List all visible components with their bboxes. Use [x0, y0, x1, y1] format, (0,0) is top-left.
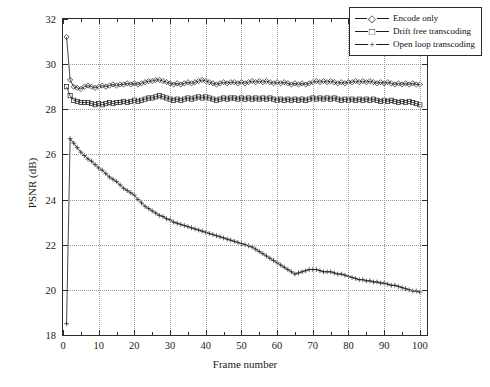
grid-line-vertical	[277, 19, 279, 335]
legend-marker-plus-icon: +	[355, 39, 389, 51]
data-point-plus	[293, 272, 298, 277]
grid-line-horizontal	[63, 290, 427, 292]
axis-tick-y	[422, 290, 427, 291]
axis-tick-y	[63, 64, 68, 65]
grid-line-vertical	[420, 19, 422, 335]
axis-tick-x	[206, 19, 207, 24]
y-tick-label: 18	[36, 330, 56, 341]
grid-line-vertical	[206, 19, 208, 335]
axis-tick-x	[134, 19, 135, 24]
data-point-plus	[146, 206, 151, 211]
data-point-plus	[289, 269, 294, 274]
data-point-plus	[318, 268, 323, 273]
data-point-plus	[161, 214, 166, 219]
legend-item-drift-free-transcoding: □ Drift free transcoding	[355, 25, 475, 38]
data-point-plus	[228, 238, 233, 243]
data-point-plus	[178, 222, 183, 227]
data-point-plus	[214, 233, 219, 238]
data-point-plus	[64, 321, 69, 326]
grid-line-vertical	[384, 19, 386, 335]
x-tick-label: 20	[129, 340, 140, 351]
grid-line-vertical	[348, 19, 350, 335]
data-point-plus	[282, 265, 287, 270]
axis-tick-y	[422, 154, 427, 155]
grid-line-vertical	[170, 19, 172, 335]
axis-tick-y	[63, 245, 68, 246]
axis-tick-x-minor	[402, 332, 403, 335]
grid-line-vertical	[241, 19, 243, 335]
axis-tick-y	[422, 64, 427, 65]
axis-tick-y	[422, 109, 427, 110]
y-tick-label: 30	[36, 59, 56, 70]
y-axis-title: PSNR (dB)	[26, 123, 38, 243]
data-point-plus	[150, 208, 155, 213]
data-point-plus	[375, 280, 380, 285]
data-point-plus	[303, 268, 308, 273]
data-point-plus	[232, 239, 237, 244]
axis-tick-x	[313, 19, 314, 24]
data-point-plus	[343, 273, 348, 278]
axis-tick-x-minor	[224, 19, 225, 22]
axis-tick-x	[277, 19, 278, 24]
axis-tick-x-minor	[259, 19, 260, 22]
grid-line-horizontal	[63, 109, 427, 111]
data-point-plus	[296, 271, 301, 276]
axis-tick-y	[63, 290, 68, 291]
x-tick-label: 80	[343, 340, 354, 351]
legend-item-open-loop-transcoding: + Open loop transcoding	[355, 38, 475, 51]
legend-label-encode-only: Encode only	[393, 12, 438, 25]
axis-tick-x-minor	[188, 19, 189, 22]
axis-tick-x	[420, 330, 421, 335]
axis-tick-y	[63, 19, 68, 20]
data-point-plus	[175, 221, 180, 226]
axis-tick-x-minor	[81, 19, 82, 22]
axis-tick-y	[422, 335, 427, 336]
x-tick-label: 10	[93, 340, 104, 351]
data-point-plus	[225, 237, 230, 242]
axis-tick-x-minor	[295, 332, 296, 335]
x-tick-label: 40	[200, 340, 211, 351]
axis-tick-x-minor	[152, 332, 153, 335]
data-point-plus	[368, 278, 373, 283]
axis-tick-x	[241, 330, 242, 335]
axis-tick-x	[99, 330, 100, 335]
data-point-plus	[396, 284, 401, 289]
axis-tick-x	[313, 330, 314, 335]
data-point-plus	[218, 234, 223, 239]
data-point-plus	[111, 177, 116, 182]
x-tick-label: 0	[60, 340, 65, 351]
data-point-plus	[271, 258, 276, 263]
axis-tick-y	[63, 335, 68, 336]
data-point-plus	[182, 223, 187, 228]
data-point-plus	[257, 249, 262, 254]
grid-line-vertical	[99, 19, 101, 335]
data-point-plus	[200, 229, 205, 234]
data-point-plus	[332, 271, 337, 276]
axis-tick-x	[206, 330, 207, 335]
legend-marker-diamond-icon: ◇	[355, 13, 389, 25]
data-point-plus	[153, 211, 158, 216]
axis-tick-x-minor	[331, 19, 332, 22]
y-tick-label: 24	[36, 194, 56, 205]
data-point-plus	[164, 216, 169, 221]
axis-tick-x-minor	[81, 332, 82, 335]
data-point-plus	[128, 190, 133, 195]
axis-tick-x	[384, 330, 385, 335]
y-tick-label: 20	[36, 284, 56, 295]
data-point-plus	[253, 247, 258, 252]
axis-tick-x	[170, 19, 171, 24]
grid-line-vertical	[134, 19, 136, 335]
y-tick-label: 32	[36, 14, 56, 25]
grid-line-horizontal	[63, 245, 427, 247]
axis-tick-x	[348, 330, 349, 335]
x-tick-label: 50	[236, 340, 247, 351]
x-tick-label: 60	[272, 340, 283, 351]
data-point-plus	[125, 188, 130, 193]
grid-line-horizontal	[63, 200, 427, 202]
axis-tick-x-minor	[295, 19, 296, 22]
grid-line-horizontal	[63, 154, 427, 156]
axis-tick-x-minor	[117, 19, 118, 22]
data-point-plus	[268, 256, 273, 261]
data-point-plus	[285, 267, 290, 272]
data-point-plus	[186, 224, 191, 229]
